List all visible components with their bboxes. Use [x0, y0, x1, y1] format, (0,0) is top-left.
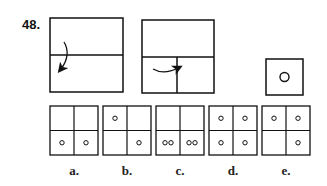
option-label[interactable]: e. [276, 163, 296, 179]
answer-option-a[interactable] [50, 106, 98, 155]
option-label[interactable]: a. [64, 163, 84, 179]
answer-option-e[interactable] [262, 106, 310, 155]
puzzle-figure [0, 0, 327, 186]
punched-hole-icon [280, 73, 289, 82]
option-label[interactable]: b. [117, 163, 137, 179]
folded-paper [266, 59, 303, 95]
fold-right-arrow-icon [153, 68, 178, 72]
answer-option-d[interactable] [209, 106, 257, 155]
answer-option-c[interactable] [156, 106, 204, 155]
answer-option-b[interactable] [103, 106, 151, 155]
fold-step-1 [50, 18, 123, 92]
option-label[interactable]: d. [223, 163, 243, 179]
option-label[interactable]: c. [170, 163, 190, 179]
fold-step-2 [142, 20, 214, 93]
punch-step [266, 59, 303, 95]
